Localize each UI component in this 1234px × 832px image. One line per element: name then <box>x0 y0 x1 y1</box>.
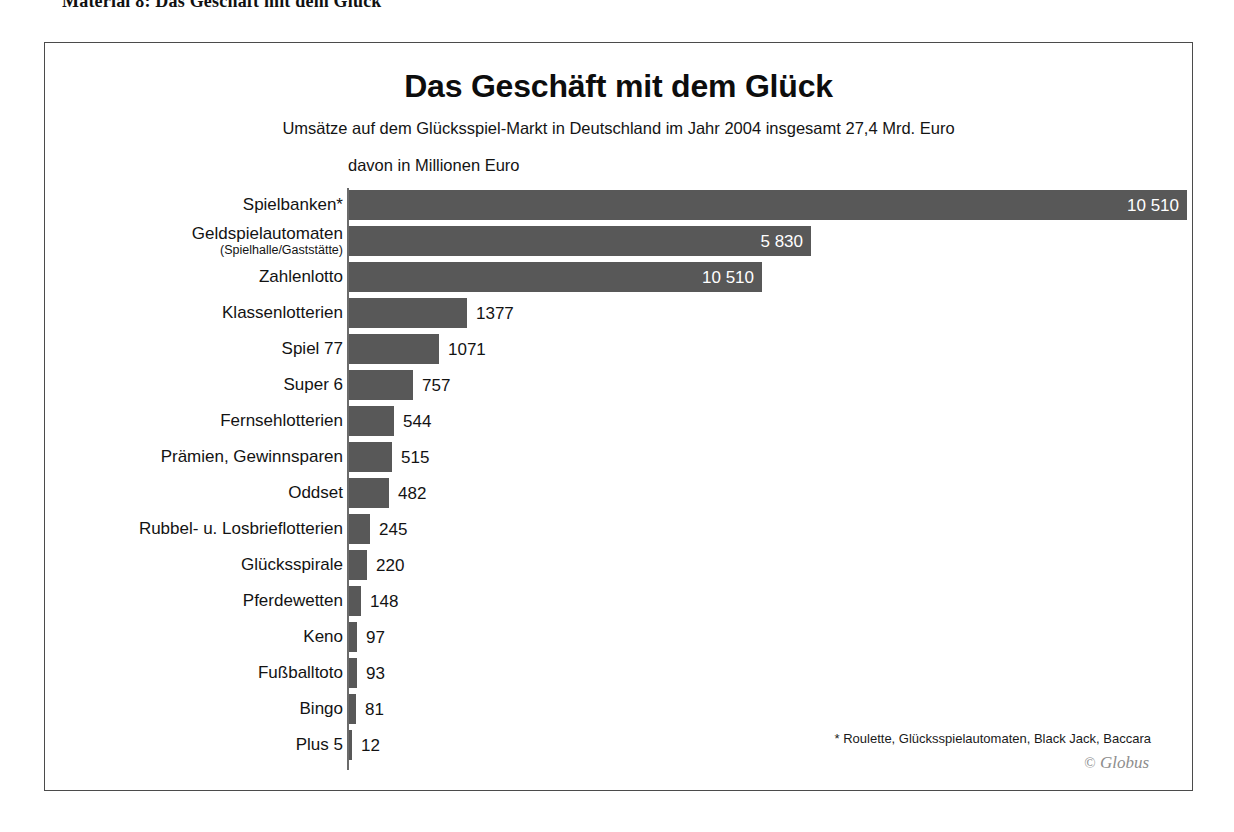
bar-value-label: 544 <box>403 413 431 430</box>
bar-row: Klassenlotterien1377 <box>45 295 1192 331</box>
bar <box>349 442 392 472</box>
bar-row: Super 6757 <box>45 367 1192 403</box>
bar-category-label-main: Prämien, Gewinnsparen <box>161 448 343 466</box>
bar-category-label-main: Spielbanken* <box>243 196 343 214</box>
bar-value-label: 220 <box>376 557 404 574</box>
bar-category-label-main: Keno <box>303 628 343 646</box>
bar-category-label: Spielbanken* <box>243 187 343 223</box>
bar <box>349 262 762 292</box>
bar-row: Prämien, Gewinnsparen515 <box>45 439 1192 475</box>
bar-category-label-main: Fußballtoto <box>258 664 343 682</box>
bar-row: Spiel 771071 <box>45 331 1192 367</box>
bar <box>349 658 357 688</box>
bar-row: Zahlenlotto10 510 <box>45 259 1192 295</box>
bar-value-label: 757 <box>422 377 450 394</box>
bar <box>349 730 352 760</box>
bar <box>349 478 389 508</box>
bar-category-label-main: Klassenlotterien <box>222 304 343 322</box>
bar <box>349 190 1187 220</box>
bar-category-label-main: Plus 5 <box>296 736 343 754</box>
bar-chart-plot-area: Spielbanken*10 510Geldspielautomaten(Spi… <box>45 186 1192 790</box>
bar-row: Keno97 <box>45 619 1192 655</box>
bar-category-label-main: Super 6 <box>283 376 343 394</box>
bar-row: Pferdewetten148 <box>45 583 1192 619</box>
bar-row: Spielbanken*10 510 <box>45 187 1192 223</box>
copyright-globus: © Globus <box>1084 753 1149 773</box>
bar-category-label: Bingo <box>300 691 343 727</box>
bar-value-label: 97 <box>366 629 385 646</box>
chart-subtitle: Umsätze auf dem Glücksspiel-Markt in Deu… <box>45 119 1192 138</box>
bar-category-label-sub: (Spielhalle/Gaststätte) <box>220 244 343 257</box>
bar-value-label: 5 830 <box>760 233 803 250</box>
bar-row: Geldspielautomaten(Spielhalle/Gaststätte… <box>45 223 1192 259</box>
bar-category-label: Fernsehlotterien <box>220 403 343 439</box>
bar <box>349 514 370 544</box>
page-header: Material 8: Das Geschäft mit dem Glück <box>62 0 382 12</box>
bar-value-label: 1071 <box>448 341 486 358</box>
bar-value-label: 482 <box>398 485 426 502</box>
bar-category-label-main: Spiel 77 <box>282 340 343 358</box>
bar-category-label: Prämien, Gewinnsparen <box>161 439 343 475</box>
bar <box>349 694 356 724</box>
bar <box>349 226 811 256</box>
bar-row: Fernsehlotterien544 <box>45 403 1192 439</box>
bar-row: Bingo81 <box>45 691 1192 727</box>
chart-footnote: * Roulette, Glücksspielautomaten, Black … <box>835 731 1151 746</box>
infographic-frame: Das Geschäft mit dem Glück Umsätze auf d… <box>44 42 1193 791</box>
bar-value-label: 81 <box>365 701 384 718</box>
bar <box>349 334 439 364</box>
bar <box>349 622 357 652</box>
bar-row: Fußballtoto93 <box>45 655 1192 691</box>
bar-category-label: Pferdewetten <box>243 583 343 619</box>
bar-value-label: 12 <box>361 737 380 754</box>
bar <box>349 370 413 400</box>
chart-title: Das Geschäft mit dem Glück <box>45 68 1192 105</box>
bar-category-label: Rubbel- u. Losbrieflotterien <box>139 511 343 547</box>
bar-category-label: Super 6 <box>283 367 343 403</box>
bar-category-label: Plus 5 <box>296 727 343 763</box>
bar <box>349 406 394 436</box>
bar-category-label: Oddset <box>288 475 343 511</box>
bar-category-label-main: Oddset <box>288 484 343 502</box>
chart-unit-label: davon in Millionen Euro <box>348 156 520 175</box>
bar-category-label-main: Bingo <box>300 700 343 718</box>
bar-category-label-main: Fernsehlotterien <box>220 412 343 430</box>
bar-row: Rubbel- u. Losbrieflotterien245 <box>45 511 1192 547</box>
bar-value-label: 10 510 <box>702 269 754 286</box>
bar-row: Glücksspirale220 <box>45 547 1192 583</box>
bar-category-label-main: Rubbel- u. Losbrieflotterien <box>139 520 343 538</box>
bar-category-label: Glücksspirale <box>241 547 343 583</box>
bar-category-label: Keno <box>303 619 343 655</box>
bar-value-label: 93 <box>366 665 385 682</box>
copyright-label: Globus <box>1100 753 1149 772</box>
bar-category-label-main: Zahlenlotto <box>259 268 343 286</box>
bar-category-label: Geldspielautomaten(Spielhalle/Gaststätte… <box>192 223 343 259</box>
bar-value-label: 1377 <box>476 305 514 322</box>
bar-value-label: 515 <box>401 449 429 466</box>
copyright-symbol: © <box>1084 755 1095 771</box>
bar-value-label: 10 510 <box>1127 197 1179 214</box>
bar-value-label: 245 <box>379 521 407 538</box>
bar-category-label: Klassenlotterien <box>222 295 343 331</box>
bar-category-label-main: Pferdewetten <box>243 592 343 610</box>
bar <box>349 298 467 328</box>
bar <box>349 550 367 580</box>
bar-value-label: 148 <box>370 593 398 610</box>
bar-category-label: Zahlenlotto <box>259 259 343 295</box>
bar-category-label: Fußballtoto <box>258 655 343 691</box>
bar-category-label: Spiel 77 <box>282 331 343 367</box>
bar-category-label-main: Glücksspirale <box>241 556 343 574</box>
bar <box>349 586 361 616</box>
bar-category-label-main: Geldspielautomaten <box>192 225 343 243</box>
bar-row: Oddset482 <box>45 475 1192 511</box>
